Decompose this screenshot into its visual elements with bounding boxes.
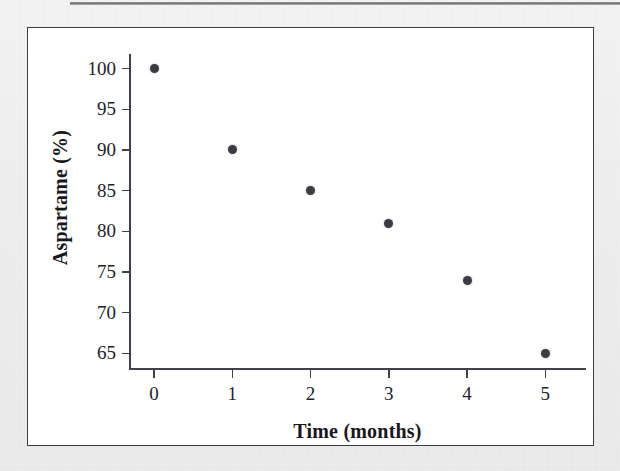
x-tick-mark: [545, 369, 547, 378]
data-point: [541, 349, 550, 358]
x-tick-mark: [153, 369, 155, 378]
y-tick-mark: [122, 312, 130, 314]
x-axis-title: Time (months): [129, 420, 586, 443]
x-tick-mark: [388, 369, 390, 378]
y-tick-mark: [122, 149, 130, 151]
y-tick-mark: [122, 109, 130, 111]
data-point: [463, 276, 472, 285]
figure-frame: 65707580859095100 012345 Time (months) A…: [27, 27, 594, 446]
x-tick-label: 2: [291, 384, 331, 403]
y-axis-title: Aspartame (%): [49, 48, 72, 348]
data-point: [228, 145, 237, 154]
x-tick-label: 1: [212, 384, 252, 403]
y-axis-line: [129, 54, 131, 370]
x-tick-mark: [466, 369, 468, 378]
y-tick-mark: [122, 190, 130, 192]
data-point: [306, 186, 315, 195]
x-axis-line: [129, 368, 586, 370]
x-tick-label: 5: [525, 384, 565, 403]
scan-top-rule: [70, 2, 620, 5]
data-point: [150, 64, 159, 73]
x-tick-label: 4: [447, 384, 487, 403]
x-tick-mark: [310, 369, 312, 378]
x-tick-label: 3: [369, 384, 409, 403]
y-tick-mark: [122, 353, 130, 355]
y-tick-mark: [122, 271, 130, 273]
y-tick-mark: [122, 68, 130, 70]
scatter-plot-area: 65707580859095100 012345 Time (months) A…: [28, 28, 595, 447]
x-tick-label: 0: [134, 384, 174, 403]
y-tick-mark: [122, 231, 130, 233]
data-point: [384, 219, 393, 228]
x-tick-mark: [232, 369, 234, 378]
